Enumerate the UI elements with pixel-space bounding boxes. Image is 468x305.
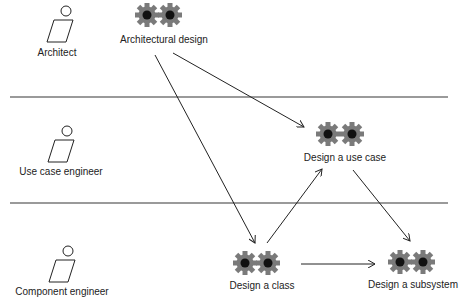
actor-label-use-case-engineer: Use case engineer — [19, 166, 102, 178]
actor-icon-component-engineer — [49, 246, 75, 282]
actor-icon-architect — [47, 6, 73, 42]
gear-icon-architectural-design — [135, 3, 182, 27]
activity-label-architectural-design: Architectural design — [120, 34, 208, 46]
activity-label-design-class: Design a class — [229, 280, 294, 292]
gear-icon-design-subsystem — [388, 250, 435, 274]
actor-icon-use-case-engineer — [48, 126, 74, 162]
arrow-use-case-to-subsystem — [353, 170, 410, 241]
actor-label-component-engineer: Component engineer — [15, 286, 108, 298]
activity-label-design-subsystem: Design a subsystem — [368, 279, 458, 291]
arrow-architectural-to-use-case — [173, 53, 304, 127]
gear-icon-design-class — [233, 251, 280, 275]
arrow-architectural-to-class — [155, 55, 255, 243]
workflow-diagram — [0, 0, 468, 305]
arrow-class-to-use-case — [267, 169, 322, 243]
activity-label-design-use-case: Design a use case — [304, 152, 386, 164]
actor-label-architect: Architect — [38, 47, 77, 59]
gear-icon-design-use-case — [316, 122, 364, 146]
